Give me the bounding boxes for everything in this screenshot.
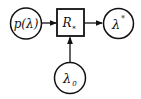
node-output-label: λ [111,17,120,32]
node-input-label: p(λ) [14,17,39,31]
node-input: p(λ) [11,8,42,39]
block-diagram: p(λ) R * λ * λ 0 [0,0,141,99]
node-block-subscript: * [72,25,76,33]
node-output-superscript: * [121,14,125,23]
node-block-label: R [61,16,71,30]
node-param-subscript: 0 [72,80,77,88]
node-output: λ * [104,9,134,39]
node-block: R * [57,9,84,36]
node-param-label: λ [62,71,71,86]
node-param: λ 0 [55,63,86,94]
